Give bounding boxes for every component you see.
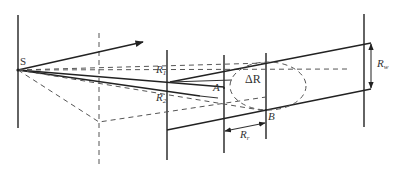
label-rr: Rr: [240, 129, 249, 142]
label-point-b: B: [268, 111, 275, 122]
point-b-marker: [265, 109, 267, 111]
label-r2: R2: [156, 92, 166, 105]
beam-upper-edge: [170, 43, 371, 82]
label-point-a: A: [213, 82, 220, 93]
label-delta-r: ΔR: [245, 73, 261, 85]
ray-segment-a: [200, 96, 218, 98]
label-rr-sub: r: [247, 134, 250, 142]
point-a-marker: [223, 87, 225, 89]
dashed-ray-center: [18, 69, 349, 70]
label-r2-sub: 2: [163, 97, 167, 105]
label-rr-main: R: [240, 128, 247, 140]
label-r1: R1: [156, 64, 166, 77]
source-point: [16, 68, 19, 71]
direction-arrow: [18, 42, 143, 70]
dashed-ray-bottom: [18, 70, 266, 122]
label-r1-main: R: [156, 63, 163, 75]
label-r2-main: R: [156, 91, 163, 103]
label-rw-sub: w: [384, 63, 389, 71]
resolution-ellipse: [230, 62, 306, 110]
label-r1-sub: 1: [163, 69, 167, 77]
label-rw-main: R: [377, 57, 384, 69]
label-source: S: [20, 56, 26, 67]
geometry-diagram: [0, 0, 397, 175]
dashed-ray-lower: [18, 70, 266, 111]
label-rw: Rw: [377, 58, 388, 71]
